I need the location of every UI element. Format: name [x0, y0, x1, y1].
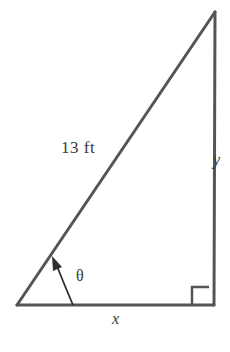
vertical-side-label: y	[213, 152, 220, 168]
angle-arc	[57, 266, 73, 305]
triangle-figure: 13 ft y x θ	[0, 0, 230, 352]
triangle-diagram-svg	[0, 0, 230, 352]
angle-arrow-head-icon	[52, 256, 62, 271]
angle-theta-label: θ	[76, 268, 84, 284]
right-angle-marker-icon	[192, 287, 209, 304]
hypotenuse-label: 13 ft	[61, 139, 95, 156]
horizontal-side-label: x	[112, 311, 119, 327]
hypotenuse-line	[17, 12, 215, 305]
